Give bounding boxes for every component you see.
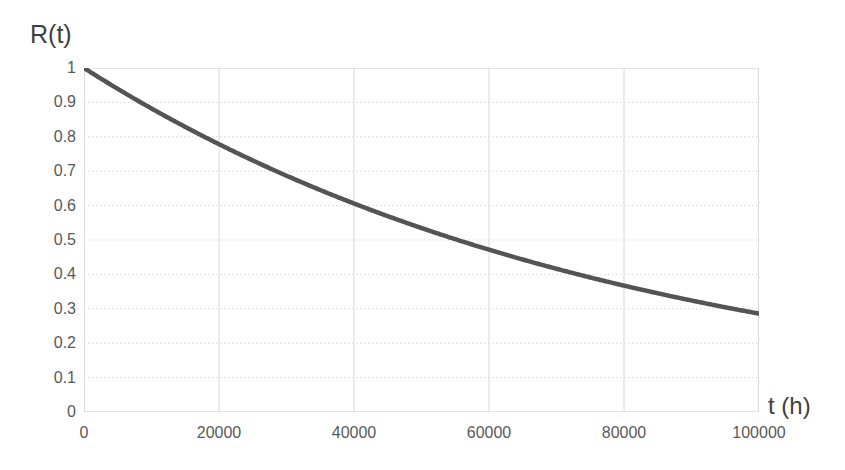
y-axis-title: R(t) — [30, 20, 72, 49]
y-axis-tick-label: 0.9 — [16, 93, 76, 111]
x-axis-tick-label: 0 — [80, 424, 89, 442]
y-axis-tick-label: 0.2 — [16, 334, 76, 352]
x-axis-tick-label: 60000 — [467, 424, 512, 442]
horizontal-gridlines — [84, 68, 759, 412]
y-axis-tick-label: 0.8 — [16, 128, 76, 146]
x-axis-tick-labels: 020000400006000080000100000 — [84, 424, 759, 448]
x-axis-tick-label: 40000 — [332, 424, 377, 442]
y-axis-tick-label: 0.3 — [16, 300, 76, 318]
y-axis-tick-label: 0.4 — [16, 265, 76, 283]
reliability-decay-chart: R(t) 00.10.20.30.40.50.60.70.80.91 02000… — [0, 0, 845, 470]
y-axis-tick-label: 1 — [16, 59, 76, 77]
x-axis-title: t (h) — [768, 392, 811, 420]
y-axis-tick-labels: 00.10.20.30.40.50.60.70.80.91 — [14, 68, 76, 412]
y-axis-tick-label: 0 — [16, 403, 76, 421]
y-axis-tick-label: 0.1 — [16, 369, 76, 387]
x-axis-tick-label: 20000 — [197, 424, 242, 442]
y-axis-tick-label: 0.5 — [16, 231, 76, 249]
y-axis-tick-label: 0.6 — [16, 197, 76, 215]
data-series-line — [84, 68, 759, 314]
x-axis-tick-label: 80000 — [602, 424, 647, 442]
x-axis-tick-label: 100000 — [732, 424, 785, 442]
y-axis-tick-label: 0.7 — [16, 162, 76, 180]
plot-svg — [84, 68, 759, 412]
plot-area — [84, 68, 759, 412]
